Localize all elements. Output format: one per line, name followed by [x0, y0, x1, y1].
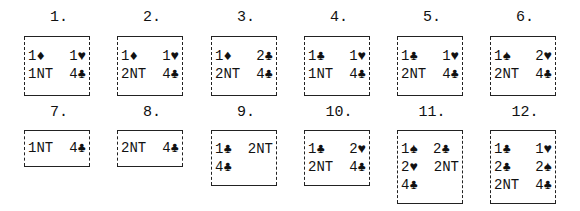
bid-opener: 1♦: [215, 47, 232, 65]
auction-row: 2NT 4♣: [121, 139, 179, 157]
diagram-number: 12.: [490, 105, 560, 121]
bid-opener: 2NT: [401, 65, 426, 83]
diagram-number: 5.: [397, 10, 467, 26]
bid-responder: 4♣: [535, 65, 552, 83]
bid-responder: 1♥: [349, 47, 366, 65]
diagram-number: 10.: [304, 105, 374, 121]
bid-opener: 1♣: [215, 140, 232, 158]
auction-box: 2NT 4♣: [117, 130, 183, 167]
bid-responder: 1♥: [162, 47, 179, 65]
bid-responder: 2NT: [248, 140, 273, 158]
auction-box: 1♠ 2♥ 2NT 4♣: [490, 36, 556, 96]
diagram-number: 9.: [211, 105, 281, 121]
bid-responder: 2♣: [433, 140, 450, 158]
bid-responder: 4♣: [349, 158, 366, 176]
auction-row: 2NT 4♣: [401, 65, 459, 83]
bid-responder: 4♣: [162, 65, 179, 83]
auction-row: 2NT 4♣: [121, 65, 179, 83]
bid-opener: 2NT: [308, 158, 333, 176]
bid-opener: 1♦: [28, 47, 45, 65]
bid-responder: 4♣: [69, 139, 86, 157]
bid-opener: 2♥: [401, 158, 418, 176]
diagram-number: 8.: [117, 105, 187, 121]
bid-opener: 4♣: [401, 176, 418, 194]
bid-opener: 1NT: [28, 139, 53, 157]
auction-box: 1♦ 1♥ 2NT 4♣: [117, 36, 183, 96]
auction-row: 1♠ 2♣: [401, 140, 459, 158]
auction-row: 1♣ 1♥: [494, 140, 552, 158]
auction-row: 1♦ 2♣: [215, 47, 273, 65]
diagram-number: 3.: [211, 10, 281, 26]
auction-row: 2NT 4♣: [308, 158, 366, 176]
bid-opener: 1♦: [121, 47, 138, 65]
bid-responder: 1♥: [69, 47, 86, 65]
bid-responder: 4♣: [349, 65, 366, 83]
bid-responder: 2♥: [349, 140, 366, 158]
bid-responder: 2♣: [256, 47, 273, 65]
auction-row: 1♦ 1♥: [121, 47, 179, 65]
bid-opener: 1♣: [308, 47, 325, 65]
auction-row: 1NT 4♣: [28, 139, 86, 157]
diagram-number: 4.: [304, 10, 374, 26]
auction-box: 1♦ 1♥ 1NT 4♣: [24, 36, 90, 96]
auction-row: 1♣ 1♥: [401, 47, 459, 65]
auction-box: 1♣ 2♥ 2NT 4♣: [304, 130, 370, 186]
bid-opener: 1♣: [308, 140, 325, 158]
bid-opener: 2♣: [494, 158, 511, 176]
diagram-number: 11.: [397, 105, 467, 121]
auction-row: 1♣ 2NT: [215, 140, 273, 158]
bid-responder: 4♣: [69, 65, 86, 83]
bid-responder: 4♣: [535, 176, 552, 194]
bid-opener: 2NT: [121, 65, 146, 83]
auction-row: 2♥ 2NT: [401, 158, 459, 176]
bid-responder: 4♣: [256, 65, 273, 83]
bid-opener: 2NT: [494, 65, 519, 83]
bid-responder: 1♥: [535, 140, 552, 158]
bid-opener: 2NT: [494, 176, 519, 194]
bid-opener: 1♣: [494, 140, 511, 158]
bid-opener: 1♠: [401, 140, 418, 158]
bid-opener: 2NT: [121, 139, 146, 157]
auction-row: 2♣ 2♠: [494, 158, 552, 176]
bid-opener: 1♣: [401, 47, 418, 65]
auction-box: 1♦ 2♣ 2NT 4♣: [211, 36, 277, 96]
bid-opener: 1NT: [308, 65, 333, 83]
bid-opener: 1♠: [494, 47, 511, 65]
auction-row: 1♣ 2♥: [308, 140, 366, 158]
auction-row: 4♣: [401, 176, 459, 194]
auction-box: 1♣ 2NT 4♣: [211, 130, 277, 186]
auction-row: 1NT 4♣: [308, 65, 366, 83]
auction-box: 1♣ 1♥ 1NT 4♣: [304, 36, 370, 96]
bid-opener: 4♣: [215, 158, 232, 176]
diagram-number: 1.: [24, 10, 94, 26]
auction-row: 2NT 4♣: [494, 176, 552, 194]
diagram-number: 6.: [490, 10, 560, 26]
diagram-number: 2.: [117, 10, 187, 26]
auction-box: 1NT 4♣: [24, 130, 90, 167]
auction-box: 1♠ 2♣ 2♥ 2NT 4♣: [397, 130, 463, 204]
bid-responder: 4♣: [162, 139, 179, 157]
auction-row: 1NT 4♣: [28, 65, 86, 83]
bid-responder: 2♥: [535, 47, 552, 65]
bid-responder: 4♣: [442, 65, 459, 83]
auction-row: 1♣ 1♥: [308, 47, 366, 65]
auction-box: 1♣ 1♥ 2NT 4♣: [397, 36, 463, 96]
bid-responder: 2NT: [434, 158, 459, 176]
auction-row: 4♣: [215, 158, 273, 176]
auction-row: 2NT 4♣: [494, 65, 552, 83]
auction-row: 1♠ 2♥: [494, 47, 552, 65]
auction-row: 1♦ 1♥: [28, 47, 86, 65]
diagram-number: 7.: [24, 105, 94, 121]
auction-box: 1♣ 1♥ 2♣ 2♠ 2NT 4♣: [490, 130, 556, 204]
bid-responder: 2♠: [535, 158, 552, 176]
bid-opener: 2NT: [215, 65, 240, 83]
bid-opener: 1NT: [28, 65, 53, 83]
auction-row: 2NT 4♣: [215, 65, 273, 83]
bid-responder: 1♥: [442, 47, 459, 65]
